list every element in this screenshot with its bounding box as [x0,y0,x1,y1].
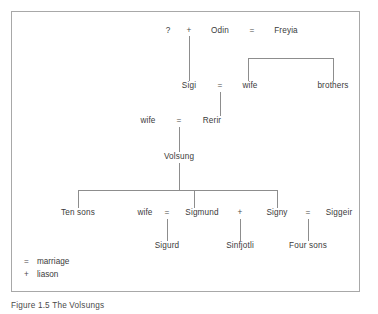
legend-liason-label: liason [37,269,58,282]
node-brothers: brothers [317,81,348,91]
symbol-marriage-wife-rerir: = [177,116,182,126]
node-volsung: Volsung [164,152,194,162]
node-wife-of-sigmund: wife [137,208,152,218]
node-wife-of-rerir: wife [140,116,155,126]
connector-volsung-stem [179,163,180,190]
node-siggeir: Siggeir [326,208,353,218]
symbol-marriage-odin-freyia: = [250,26,255,36]
connector-sigi-wife-to-rerir [220,92,221,116]
connector-signy-siggeir-to-four-sons [308,219,309,241]
connector-freyia-to-wife [248,58,249,81]
node-four-sons: Four sons [289,241,327,251]
figure-caption: Figure 1.5 The Volsungs [11,301,104,310]
symbol-liason-unknown-odin: + [187,26,192,36]
legend-liason-symbol: + [24,269,37,282]
node-freyia: Freyia [274,26,298,36]
node-unknown: ? [166,26,171,36]
connector-unknown-odin-to-sigi [189,36,190,81]
figure-root: ? + Odin = Freyia Sigi = wife brothers w… [0,0,378,314]
genealogy-canvas: ? + Odin = Freyia Sigi = wife brothers w… [12,12,359,291]
node-wife-of-sigi: wife [242,81,257,91]
node-signy: Signy [266,208,287,218]
node-ten-sons: Ten sons [61,208,95,218]
node-sigi: Sigi [182,81,196,91]
connector-volsung-to-signy [277,190,278,208]
legend: = marriage + liason [24,256,69,281]
node-odin: Odin [211,26,229,36]
connector-wife-rerir-to-volsung [179,127,180,152]
legend-marriage-symbol: = [24,256,37,269]
connector-sigmund-signy-to-sinfjotli [240,219,241,241]
symbol-marriage-wife-sigmund: = [165,208,170,218]
connector-freyia-bracket-bar [248,58,334,59]
symbol-liason-sigmund-signy: + [238,208,243,218]
legend-item-liason: + liason [24,269,69,282]
symbol-marriage-signy-siggeir: = [306,208,311,218]
node-sigmund: Sigmund [185,208,218,218]
connector-wife-sigmund-to-sigurd [167,219,168,241]
connector-volsung-to-sigmund [194,190,195,208]
legend-item-marriage: = marriage [24,256,69,269]
legend-marriage-label: marriage [37,256,69,269]
node-sinfjotli: Sinfjotli [226,241,254,251]
node-rerir: Rerir [203,116,222,126]
connector-freyia-to-brothers [333,58,334,81]
connector-volsung-to-ten-sons [78,190,79,208]
symbol-marriage-sigi-wife: = [218,81,223,91]
diagram-frame: ? + Odin = Freyia Sigi = wife brothers w… [11,11,360,292]
node-sigurd: Sigurd [155,241,180,251]
connector-volsung-bracket-bar [78,190,278,191]
